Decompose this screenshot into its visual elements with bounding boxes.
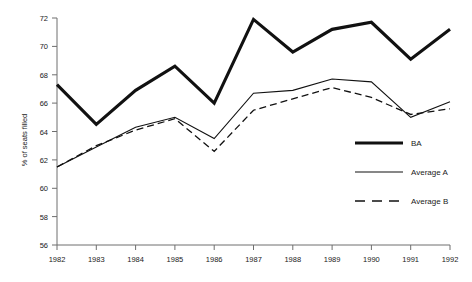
x-axis-ticks xyxy=(57,245,450,250)
y-tick-label: 62 xyxy=(40,156,48,165)
x-tick-label: 1992 xyxy=(442,255,459,264)
y-tick-label: 66 xyxy=(40,99,48,108)
y-tick-label: 60 xyxy=(40,184,48,193)
x-tick-label: 1983 xyxy=(88,255,105,264)
legend-label-average-a: Average A xyxy=(411,168,448,177)
y-tick-label: 68 xyxy=(40,71,48,80)
legend: BA Average A Average B xyxy=(355,139,448,206)
x-axis-tick-labels: 1982 1983 1984 1985 1986 1987 1988 1989 … xyxy=(49,255,459,264)
y-axis-tick-labels: 72 70 68 66 64 62 60 58 56 xyxy=(40,14,48,250)
y-tick-label: 56 xyxy=(40,241,48,250)
x-tick-label: 1985 xyxy=(167,255,184,264)
legend-label-ba: BA xyxy=(411,139,422,148)
x-tick-label: 1986 xyxy=(206,255,223,264)
y-axis-title: % of seats filled xyxy=(20,114,29,167)
y-tick-label: 72 xyxy=(40,14,48,23)
series-line-ba xyxy=(57,19,450,124)
x-tick-label: 1984 xyxy=(127,255,144,264)
y-tick-label: 58 xyxy=(40,213,48,222)
x-tick-label: 1982 xyxy=(49,255,66,264)
chart-container: 72 70 68 66 64 62 60 58 56 % of seats fi… xyxy=(0,0,472,282)
legend-label-average-b: Average B xyxy=(411,197,448,206)
x-tick-label: 1990 xyxy=(363,255,380,264)
x-tick-label: 1989 xyxy=(324,255,341,264)
series-line-average-a xyxy=(57,79,450,167)
y-axis-ticks xyxy=(52,18,57,245)
x-tick-label: 1987 xyxy=(245,255,262,264)
y-tick-label: 64 xyxy=(40,128,48,137)
x-tick-label: 1991 xyxy=(402,255,419,264)
line-chart: 72 70 68 66 64 62 60 58 56 % of seats fi… xyxy=(0,0,472,282)
y-tick-label: 70 xyxy=(40,42,48,51)
x-tick-label: 1988 xyxy=(284,255,301,264)
